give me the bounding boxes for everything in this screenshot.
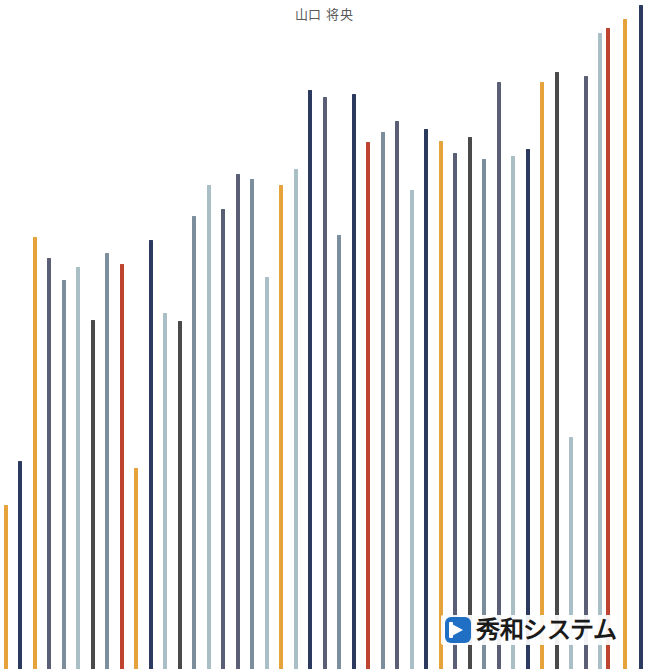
- bar-39: [555, 72, 559, 669]
- bar-11: [149, 240, 153, 669]
- bar-38: [540, 82, 544, 669]
- bar-24: [337, 235, 341, 669]
- bar-25: [352, 94, 356, 669]
- bar-33: [468, 137, 472, 669]
- bar-6: [76, 267, 80, 669]
- bar-2: [18, 461, 22, 669]
- bar-41: [584, 76, 588, 669]
- bar-9: [120, 264, 124, 669]
- bar-37: [526, 149, 530, 669]
- bar-16: [221, 209, 225, 669]
- bar-14: [192, 216, 196, 669]
- bar-27: [381, 132, 385, 669]
- bar-31: [439, 141, 443, 669]
- bar-45: [639, 5, 643, 669]
- bar-10: [134, 468, 138, 669]
- bar-23: [323, 97, 327, 669]
- bar-34: [482, 159, 486, 669]
- bar-13: [178, 321, 182, 669]
- bar-42: [598, 33, 602, 669]
- publisher-logo-text: 秀和システム: [476, 618, 616, 642]
- bar-36: [511, 156, 515, 669]
- bar-3: [33, 237, 37, 669]
- bar-21: [294, 169, 298, 669]
- bar-30: [424, 129, 428, 669]
- bar-26: [366, 142, 370, 669]
- bar-1: [4, 505, 8, 669]
- bar-8: [105, 253, 109, 669]
- publisher-logo: 秀和システム: [441, 615, 620, 645]
- chart-page: 山口 将央 秀和システム: [0, 0, 648, 669]
- bar-4: [47, 258, 51, 669]
- bar-5: [62, 280, 66, 669]
- bar-18: [250, 179, 254, 669]
- bar-32: [453, 153, 457, 669]
- bar-15: [207, 185, 211, 669]
- bar-29: [410, 190, 414, 669]
- bar-chart-plot-area: [0, 0, 648, 669]
- bar-35: [497, 82, 501, 669]
- bar-12: [163, 313, 167, 669]
- bar-20: [279, 185, 283, 669]
- bar-17: [236, 174, 240, 669]
- bar-44: [623, 19, 627, 669]
- bar-28: [395, 121, 399, 669]
- shuwa-system-logo-icon: [445, 617, 471, 643]
- bar-43: [606, 28, 610, 669]
- bar-22: [308, 90, 312, 669]
- bar-7: [91, 320, 95, 669]
- bar-19: [265, 277, 269, 669]
